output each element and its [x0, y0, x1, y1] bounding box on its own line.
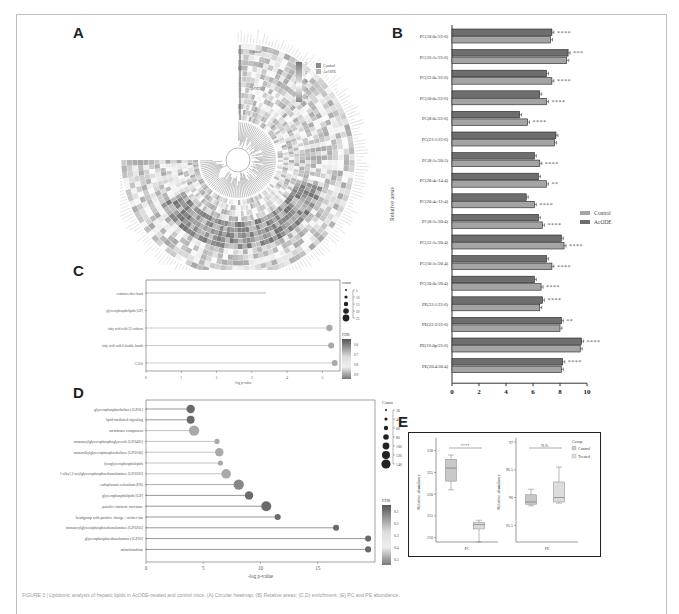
svg-text:****: **** — [546, 284, 560, 290]
svg-text:PC(20:4e/12:4): PC(20:4e/12:4) — [420, 199, 449, 204]
svg-text:FDR: FDR — [342, 332, 350, 337]
svg-text:AcODE: AcODE — [594, 219, 612, 225]
svg-text:5: 5 — [356, 289, 358, 293]
group-label-acode: AcODE — [249, 86, 262, 91]
svg-text:**: ** — [566, 318, 573, 324]
svg-text:****: **** — [533, 119, 547, 125]
svg-text:***: *** — [573, 50, 584, 56]
panel-label-a: A — [73, 24, 84, 41]
svg-text:glycerophospholipids [GP]: glycerophospholipids [GP] — [106, 309, 143, 313]
svg-text:fatty acid with 22 carbons: fatty acid with 22 carbons — [108, 327, 144, 331]
svg-text:PC(10:0e/20:4): PC(10:0e/20:4) — [420, 281, 449, 286]
svg-text:PE(16:0p/22:6): PE(16:0p/22:6) — [420, 343, 449, 348]
svg-text:monoalkylglycerophosphocholine: monoalkylglycerophosphocholines [GP0106] — [74, 451, 143, 455]
svg-text:1: 1 — [180, 376, 182, 380]
svg-text:headgroup with positive charge: headgroup with positive charge / zwitter… — [76, 516, 143, 520]
legend-swatch-control — [316, 63, 321, 68]
svg-text:PC(8:1e/20:4): PC(8:1e/20:4) — [422, 219, 449, 224]
svg-text:fatty acid with 6 double bonds: fatty acid with 6 double bonds — [102, 344, 144, 348]
svg-text:mitochondrion: mitochondrion — [121, 548, 143, 552]
lollipop-chart-c: 012345-log p-valuecontains ether bondgly… — [20, 278, 385, 388]
svg-text:C22:6: C22:6 — [135, 362, 144, 366]
svg-text:-log p-value: -log p-value — [248, 573, 274, 579]
svg-text:membrane component: membrane component — [109, 429, 144, 433]
group-label-control: Control — [249, 49, 261, 54]
svg-text:N.S.: N.S. — [541, 443, 549, 448]
svg-text:count: count — [342, 280, 352, 285]
svg-text:****: **** — [557, 264, 571, 270]
svg-text:20: 20 — [356, 310, 360, 314]
svg-text:97: 97 — [509, 440, 513, 445]
box-plot-e: 210215220225230Relative abundancePC****9… — [408, 432, 614, 560]
svg-text:****: **** — [552, 99, 566, 105]
svg-text:6: 6 — [531, 388, 535, 396]
svg-text:****: **** — [557, 30, 571, 36]
svg-text:****: **** — [557, 78, 571, 84]
svg-text:****: **** — [545, 161, 559, 167]
svg-text:8: 8 — [558, 388, 562, 396]
legend-swatch-acode — [316, 69, 321, 74]
lollipop-chart-d: 051015-log p-valueglycerophosphocholines… — [20, 398, 420, 586]
svg-text:10: 10 — [258, 565, 264, 571]
svg-text:Control: Control — [578, 446, 591, 451]
svg-text:220: 220 — [427, 492, 433, 497]
legend-label: Control — [323, 63, 335, 68]
svg-text:PC(12:1e/20:4): PC(12:1e/20:4) — [420, 240, 449, 245]
svg-text:Group: Group — [572, 439, 582, 444]
svg-text:0.2: 0.2 — [394, 522, 399, 526]
svg-text:****: **** — [539, 202, 553, 208]
scale-tick: -1 — [305, 86, 308, 95]
svg-text:PC(10:0e/22:6): PC(10:0e/22:6) — [420, 96, 449, 101]
svg-text:PC(8:1e/20:5): PC(8:1e/20:5) — [422, 158, 449, 163]
svg-text:96: 96 — [509, 495, 513, 500]
svg-text:PE(22:3/22:6): PE(22:3/22:6) — [422, 322, 449, 327]
svg-text:40: 40 — [396, 418, 400, 422]
svg-text:0.4: 0.4 — [394, 546, 399, 550]
svg-text:10: 10 — [584, 388, 592, 396]
svg-text:Relative abundance: Relative abundance — [416, 474, 421, 509]
svg-text:15: 15 — [315, 565, 321, 571]
svg-text:**: ** — [552, 181, 559, 187]
heatmap-legend: 2 1 0 -1 -2 Control AcODE — [296, 62, 366, 107]
legend-label: AcODE — [323, 69, 336, 74]
svg-text:60: 60 — [396, 427, 400, 431]
svg-text:4: 4 — [286, 376, 288, 380]
svg-text:PC(16:1e/22:6): PC(16:1e/22:6) — [420, 55, 449, 60]
svg-text:140: 140 — [396, 463, 402, 467]
color-scale-bar — [296, 62, 302, 102]
svg-text:3: 3 — [251, 376, 253, 380]
circular-heatmap — [120, 20, 380, 270]
svg-text:Count: Count — [382, 400, 394, 405]
svg-text:PC(20:4e/14:4): PC(20:4e/14:4) — [420, 178, 449, 183]
svg-text:0: 0 — [145, 565, 148, 571]
svg-text:****: **** — [569, 243, 583, 249]
svg-text:1-alkyl,2-acylglycerophosphoet: 1-alkyl,2-acylglycerophosphoethanolamine… — [60, 472, 143, 477]
svg-text:120: 120 — [396, 454, 402, 458]
svg-text:0.8: 0.8 — [354, 363, 359, 367]
svg-text:PE(32:1/22:6): PE(32:1/22:6) — [422, 302, 449, 307]
svg-text:glycerophosphoethanolamines [G: glycerophosphoethanolamines [GP02] — [85, 537, 143, 541]
svg-text:0.1: 0.1 — [394, 510, 399, 514]
svg-text:PE: PE — [545, 546, 550, 551]
svg-text:0.6: 0.6 — [354, 343, 359, 347]
svg-text:5: 5 — [202, 565, 205, 571]
svg-text:positive intrinsic curvature: positive intrinsic curvature — [102, 505, 143, 509]
svg-text:PC(22:1/22:6): PC(22:1/22:6) — [422, 137, 449, 142]
panel-label-c: C — [73, 262, 84, 279]
svg-text:215: 215 — [427, 513, 433, 518]
svg-text:-log p-value: -log p-value — [234, 381, 252, 385]
svg-text:****: **** — [461, 443, 471, 448]
svg-text:PC(18:0e/22:6): PC(18:0e/22:6) — [420, 34, 449, 39]
svg-text:PC: PC — [465, 546, 470, 551]
svg-text:210: 210 — [427, 535, 433, 540]
svg-text:****: **** — [547, 297, 561, 303]
svg-text:0.5: 0.5 — [394, 558, 399, 562]
svg-text:lysoglycerophospholipids: lysoglycerophospholipids — [104, 462, 144, 466]
svg-text:contains ether bond: contains ether bond — [116, 292, 143, 296]
svg-text:PC(10:1e/20:4): PC(10:1e/20:4) — [420, 261, 449, 266]
svg-text:100: 100 — [396, 445, 402, 449]
svg-text:glycerophospholipids [GP]: glycerophospholipids [GP] — [102, 494, 143, 498]
svg-text:0.9: 0.9 — [354, 373, 359, 377]
figure-caption: FIGURE 3 | Lipidomic analysis of hepatic… — [22, 592, 662, 600]
scale-tick: 2 — [305, 60, 308, 69]
